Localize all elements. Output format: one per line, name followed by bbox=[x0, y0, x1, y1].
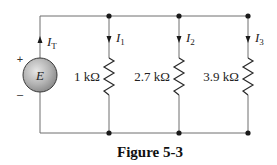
resistor-2-value: 2.7 kΩ bbox=[134, 69, 170, 84]
arrow-down-icon bbox=[107, 36, 112, 43]
node-dot-icon bbox=[176, 13, 181, 18]
node-dot-icon bbox=[176, 130, 181, 135]
node-dot-icon bbox=[106, 13, 111, 18]
arrow-down-icon bbox=[177, 36, 182, 43]
branch-2: I2 2.7 kΩ bbox=[134, 30, 195, 95]
branch-3: I3 3.9 kΩ bbox=[203, 30, 264, 95]
voltage-source: E + – IT bbox=[17, 34, 58, 100]
resistor-3-icon bbox=[243, 58, 253, 95]
branch-3-current-label: I3 bbox=[254, 30, 264, 47]
source-plus-sign: + bbox=[17, 53, 23, 65]
branch-1-current-label: I1 bbox=[115, 30, 125, 47]
node-dot-icon bbox=[245, 13, 250, 18]
source-current-label: IT bbox=[46, 34, 57, 51]
figure-caption: Figure 5-3 bbox=[117, 144, 183, 160]
branch-2-current-label: I2 bbox=[185, 30, 195, 47]
arrow-down-icon bbox=[246, 36, 251, 43]
circuit-diagram: E + – IT I1 1 kΩ I2 2.7 kΩ I3 3.9 kΩ Fig… bbox=[0, 0, 277, 165]
resistor-1-value: 1 kΩ bbox=[74, 69, 100, 84]
resistor-3-value: 3.9 kΩ bbox=[203, 69, 239, 84]
node-dot-icon bbox=[245, 130, 250, 135]
node-dot-icon bbox=[106, 130, 111, 135]
source-minus-sign: – bbox=[17, 88, 24, 100]
branch-1: I1 1 kΩ bbox=[74, 30, 125, 95]
source-label: E bbox=[35, 68, 44, 83]
resistor-1-icon bbox=[104, 58, 114, 95]
arrow-up-icon bbox=[38, 36, 43, 43]
resistor-2-icon bbox=[174, 58, 184, 95]
